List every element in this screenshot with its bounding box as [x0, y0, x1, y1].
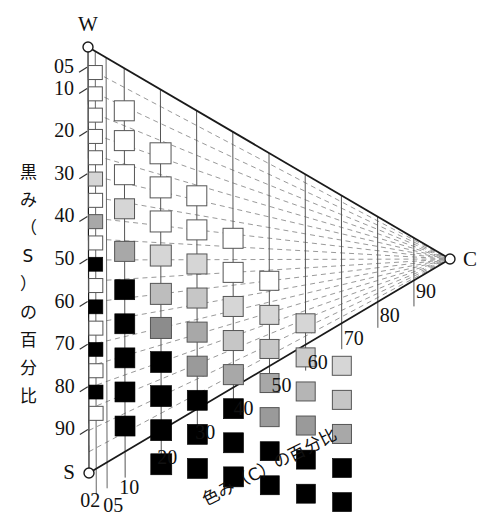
swatch-marker: [115, 314, 135, 334]
y-axis-title-char: 黒: [20, 162, 37, 182]
y-tick-label: 20: [54, 119, 74, 141]
y-axis-title-char: ）: [20, 274, 37, 294]
y-axis-title-char: 百: [20, 330, 37, 350]
swatch-marker: [223, 296, 243, 316]
swatch-marker: [150, 283, 171, 304]
swatch-marker: [150, 143, 171, 164]
tone-triangle-chart: 0510203040506070809002051020304050607080…: [0, 0, 488, 531]
swatch-marker: [187, 356, 207, 376]
swatch-marker: [224, 433, 244, 453]
y-axis-title-char: み: [20, 190, 37, 210]
swatch-marker: [332, 356, 351, 375]
y-axis-title-char: （: [20, 218, 37, 238]
swatch-marker: [115, 348, 135, 368]
vertex-circle: [445, 254, 455, 264]
swatch-marker: [296, 416, 315, 435]
swatch-marker: [296, 382, 315, 401]
y-tick-label: 10: [54, 77, 74, 99]
swatch-marker: [114, 165, 134, 185]
x-tick-label: 80: [380, 304, 400, 326]
swatch-marker: [89, 172, 103, 186]
swatch-marker: [296, 484, 315, 503]
swatch-marker: [187, 220, 207, 240]
swatch-marker: [260, 271, 279, 290]
triangle-plot-svg: 0510203040506070809002051020304050607080…: [0, 0, 488, 531]
swatch-marker: [114, 101, 134, 121]
swatch-marker: [150, 177, 171, 198]
vertex-label-c: C: [463, 247, 477, 271]
swatch-marker: [260, 408, 279, 427]
swatch-marker: [333, 459, 352, 478]
y-tick-label: 50: [55, 247, 75, 269]
x-axis-title: 色み（C）の百分比: [199, 424, 340, 509]
vertex-circle: [83, 42, 93, 52]
x-tick-label: 02: [80, 489, 100, 511]
swatch-marker: [151, 352, 172, 373]
swatch-marker: [332, 390, 351, 409]
swatch-marker: [151, 386, 172, 407]
swatch-marker: [223, 228, 243, 248]
swatch-marker: [150, 211, 171, 232]
swatch-marker: [89, 257, 103, 271]
swatch-marker: [115, 280, 135, 300]
swatch-marker: [223, 331, 243, 351]
swatch-marker: [89, 215, 103, 229]
swatch-marker: [88, 108, 102, 122]
x-tick-label: 60: [308, 351, 328, 373]
x-tick-label: 90: [416, 280, 436, 302]
y-axis-title-char: 分: [20, 358, 37, 378]
swatch-marker: [150, 317, 171, 338]
swatch-marker: [187, 186, 207, 206]
x-tick-label: 50: [272, 374, 292, 396]
y-tick-label: 30: [54, 162, 74, 184]
swatch-marker: [333, 493, 352, 512]
y-tick-label: 40: [54, 204, 74, 226]
swatch-marker: [187, 254, 207, 274]
swatch-marker: [89, 364, 103, 378]
swatch-marker: [187, 458, 207, 478]
swatch-marker: [151, 420, 172, 441]
swatch-marker: [187, 322, 207, 342]
swatch-marker: [89, 342, 103, 356]
vertical-constant-c-lines: [95, 51, 414, 494]
y-axis-title-char: の: [20, 302, 37, 322]
y-tick-label: 05: [54, 55, 74, 77]
y-axis-title-char: 比: [20, 386, 37, 406]
swatch-marker: [88, 151, 102, 165]
swatch-marker: [115, 241, 135, 261]
x-tick-label: 30: [195, 421, 215, 443]
swatch-marker: [88, 87, 102, 101]
swatch-marker: [223, 365, 243, 385]
swatch-marker: [88, 129, 102, 143]
swatch-marker: [187, 390, 207, 410]
swatch-marker: [89, 300, 103, 314]
axis-ticks: [79, 67, 88, 434]
y-tick-label: 70: [55, 332, 75, 354]
swatch-marker: [260, 339, 279, 358]
swatch-marker: [89, 385, 103, 399]
swatch-marker: [89, 279, 103, 293]
left-gray-scale-strip: [88, 66, 103, 421]
vertex-circle: [84, 468, 94, 478]
swatch-marker: [187, 288, 207, 308]
swatch-marker: [88, 66, 102, 80]
swatch-marker: [89, 321, 103, 335]
swatch-marker: [89, 406, 103, 420]
swatch-marker: [296, 314, 315, 333]
swatch-marker: [115, 416, 135, 436]
swatch-marker: [114, 131, 134, 151]
y-tick-label: 80: [55, 375, 75, 397]
x-tick-label: 40: [233, 397, 253, 419]
swatch-marker: [260, 305, 279, 324]
y-tick-label: 60: [55, 290, 75, 312]
swatch-marker: [115, 199, 135, 219]
y-tick-label: 90: [55, 417, 75, 439]
x-tick-label: 10: [119, 476, 139, 498]
swatch-marker: [89, 193, 103, 207]
swatch-marker: [89, 236, 103, 250]
x-tick-label: 70: [344, 327, 364, 349]
vertex-label-s: S: [63, 460, 75, 484]
swatch-marker: [223, 262, 243, 282]
vertex-label-w: W: [78, 12, 98, 36]
y-axis-title-char: S: [23, 246, 34, 266]
